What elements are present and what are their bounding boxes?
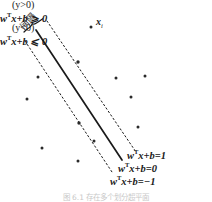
negative-class-rule-text: x+b ⩽ 0 [11,35,47,46]
weight-vector-symbol: w [127,150,134,161]
negative-class-annotation: (y<0) wTx+b ⩽ 0 [0,23,212,46]
lower-margin-equation-text: x+b=−1 [121,176,155,187]
decision-boundary-equation-label: wTx+b=0 [118,162,157,174]
weight-vector-symbol: w [0,12,7,23]
data-point [93,140,96,143]
positive-class-condition: (y>0) [12,0,212,11]
data-point-support-vector [77,121,80,124]
negative-class-condition: (y<0) [12,23,212,34]
negative-class-rule: wTx+b ⩽ 0 [0,35,212,47]
data-point [130,96,133,99]
decision-boundary-equation-text: x+b=0 [129,163,157,174]
lower-margin-equation-label: wTx+b=−1 [110,175,155,187]
data-point [144,75,147,78]
figure-caption: 图 6.1 存在多个划分超平面 [0,191,212,202]
data-point [41,147,44,150]
decision-boundary-line [36,30,122,160]
upper-margin-equation-text: x+b=1 [138,150,166,161]
weight-vector-symbol: w [110,176,117,187]
svm-margin-figure: 间隔 xi (y>0) wTx+b ⩾ 0 (y<0) wTx+b ⩽ 0 wT… [0,0,212,202]
positive-class-annotation: (y>0) wTx+b ⩾ 0 [0,0,212,23]
upper-margin-equation-label: wTx+b=1 [127,149,166,161]
data-points-group [26,26,147,163]
weight-vector-symbol: w [118,163,125,174]
data-point [137,126,140,129]
data-point [77,160,80,163]
data-point [115,77,118,80]
data-point [37,76,40,79]
lower-margin-boundary-line [25,41,112,172]
data-point [26,98,29,101]
data-point-support-vector [76,60,79,63]
weight-vector-symbol: w [0,35,7,46]
